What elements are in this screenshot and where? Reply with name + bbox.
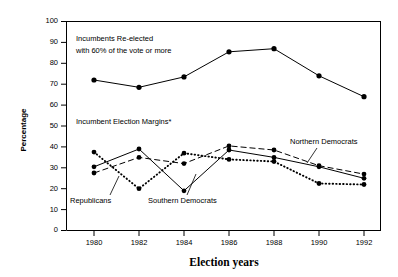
y-tick-label-10: 10 <box>50 205 58 214</box>
leader-line-republicans <box>110 176 119 195</box>
annotation-incumbent-election-margins: Incumbent Election Margins* <box>76 117 172 126</box>
data-point <box>92 164 97 169</box>
data-point <box>227 148 232 153</box>
line-chart-svg: 100 90 80 70 60 50 40 30 20 10 0 1980 <box>0 0 398 277</box>
data-point <box>92 171 97 176</box>
annotation-incumbents-reelected-line2: with 60% of the vote or more <box>75 46 171 55</box>
data-point <box>227 144 232 149</box>
series-southern-democrats <box>92 147 367 194</box>
data-point <box>182 188 187 193</box>
data-point <box>137 155 142 160</box>
x-tick-label-1984: 1984 <box>176 238 193 247</box>
x-tick-label-1980: 1980 <box>86 238 103 247</box>
data-point <box>91 77 96 82</box>
y-tick-label-0: 0 <box>54 225 58 234</box>
x-axis-ticks: 1980 1982 1984 1986 1988 1990 1992 <box>86 231 373 248</box>
data-point <box>361 94 366 99</box>
y-axis-ticks: 100 90 80 70 60 50 40 30 20 10 0 <box>45 16 66 234</box>
data-point <box>226 49 231 54</box>
leader-line-southern-democrats <box>187 174 196 195</box>
data-point <box>137 186 142 191</box>
x-tick-label-1982: 1982 <box>131 238 148 247</box>
x-tick-label-1988: 1988 <box>266 238 283 247</box>
data-point <box>271 46 276 51</box>
data-point <box>272 155 277 160</box>
x-tick-label-1986: 1986 <box>221 238 238 247</box>
series-incumbents-reelected-line <box>94 49 364 97</box>
y-tick-label-90: 90 <box>50 37 58 46</box>
y-tick-label-20: 20 <box>50 184 58 193</box>
data-point <box>272 148 277 153</box>
data-point <box>137 147 142 152</box>
y-tick-label-80: 80 <box>50 58 58 67</box>
y-tick-label-70: 70 <box>50 79 58 88</box>
data-point <box>272 159 277 164</box>
y-tick-label-100: 100 <box>45 16 58 25</box>
data-point <box>181 74 186 79</box>
data-point <box>362 182 367 187</box>
data-point <box>227 157 232 162</box>
x-tick-label-1992: 1992 <box>356 238 373 247</box>
chart-figure: 100 90 80 70 60 50 40 30 20 10 0 1980 <box>0 0 398 277</box>
y-tick-label-30: 30 <box>50 163 58 172</box>
y-tick-label-40: 40 <box>50 142 58 151</box>
x-axis-title: Election years <box>189 256 259 269</box>
annotation-republicans-label: Republicans <box>70 196 112 205</box>
data-point <box>362 176 367 181</box>
annotation-southern-democrats-label: Southern Democrats <box>148 196 217 205</box>
data-point <box>136 85 141 90</box>
y-axis-title: Percentage <box>19 108 28 152</box>
data-point <box>92 150 97 155</box>
data-point <box>317 164 322 169</box>
y-tick-label-50: 50 <box>50 121 58 130</box>
y-tick-label-60: 60 <box>50 100 58 109</box>
series-republicans <box>92 150 367 191</box>
data-point <box>362 172 367 177</box>
data-point <box>316 73 321 78</box>
data-point <box>317 181 322 186</box>
data-point <box>182 161 187 166</box>
data-point <box>182 151 187 156</box>
x-tick-label-1990: 1990 <box>311 238 328 247</box>
leader-line-northern-democrats <box>307 148 317 163</box>
annotation-northern-democrats-label: Northern Democrats <box>290 137 358 146</box>
annotation-incumbents-reelected-line1: Incumbents Re-elected <box>76 34 153 43</box>
